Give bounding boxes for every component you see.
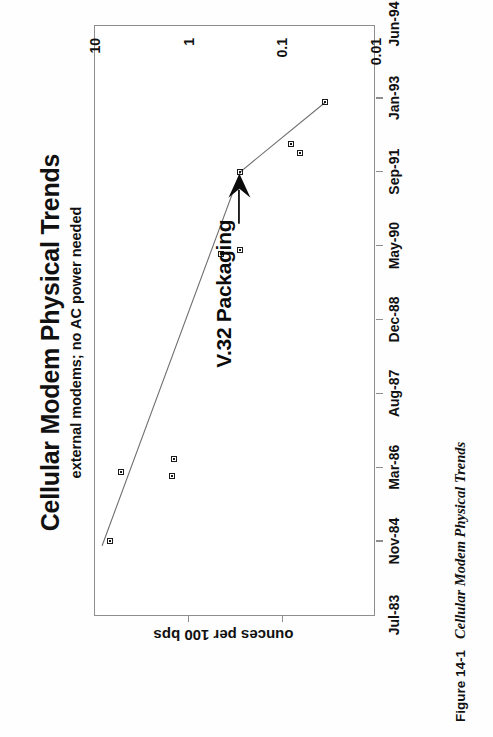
data-point-marker (118, 469, 124, 475)
figure-caption-text: Cellular Modem Physical Trends (452, 442, 468, 639)
x-axis-label: Aug-87 (386, 370, 402, 417)
x-axis-tick (376, 319, 383, 320)
annotation-label: V.32 Packaging (212, 220, 236, 368)
data-point-marker (107, 538, 113, 544)
figure-caption: Figure 14-1Cellular Modem Physical Trend… (452, 482, 469, 722)
y-axis-title: ounces per 100 bps (94, 627, 354, 644)
x-axis-label: Dec-88 (386, 297, 402, 343)
data-point-marker (171, 456, 177, 462)
chart-title: Cellular Modem Physical Trends (36, 25, 65, 660)
data-point-marker (237, 169, 243, 175)
y-axis-label: 0.1 (274, 38, 290, 57)
data-point-marker (237, 247, 243, 253)
x-axis-tick (376, 245, 383, 246)
rotated-chart-container: Cellular Modem Physical Trends external … (30, 25, 420, 660)
x-axis-label: Jul-83 (386, 595, 402, 635)
x-axis-tick (376, 540, 383, 541)
x-axis-label: May-90 (386, 222, 402, 269)
y-axis-tick (188, 615, 189, 622)
x-axis-label: Sep-91 (386, 149, 402, 195)
x-axis-label: Jan-93 (386, 76, 402, 120)
x-axis-tick (376, 467, 383, 468)
y-axis-tick (282, 615, 283, 622)
data-point-marker (322, 100, 328, 106)
x-axis-label: Jun-94 (386, 1, 402, 46)
x-axis-tick (376, 171, 383, 172)
data-point-marker (169, 473, 175, 479)
annotation-arrow-group (228, 174, 250, 224)
chart: Cellular Modem Physical Trends external … (30, 25, 420, 660)
x-axis-tick (376, 97, 383, 98)
data-point-marker (288, 141, 294, 147)
y-axis-label: 10 (87, 38, 103, 54)
x-axis-label: Nov-84 (386, 518, 402, 565)
rotated-caption-container: Figure 14-1Cellular Modem Physical Trend… (452, 482, 474, 722)
figure-number: Figure 14-1 (453, 650, 468, 722)
y-axis-label: 0.01 (368, 38, 384, 65)
chart-subtitle: external modems; no AC power needed (68, 25, 84, 660)
x-axis-label: Mar-86 (386, 445, 402, 490)
y-axis-label: 1 (181, 38, 197, 46)
plot-area: Jul-83Nov-84Mar-86Aug-87Dec-88May-90Sep-… (94, 25, 375, 616)
data-point-marker (297, 150, 303, 156)
x-axis-tick (376, 393, 383, 394)
figure-page: Cellular Modem Physical Trends external … (0, 0, 493, 737)
